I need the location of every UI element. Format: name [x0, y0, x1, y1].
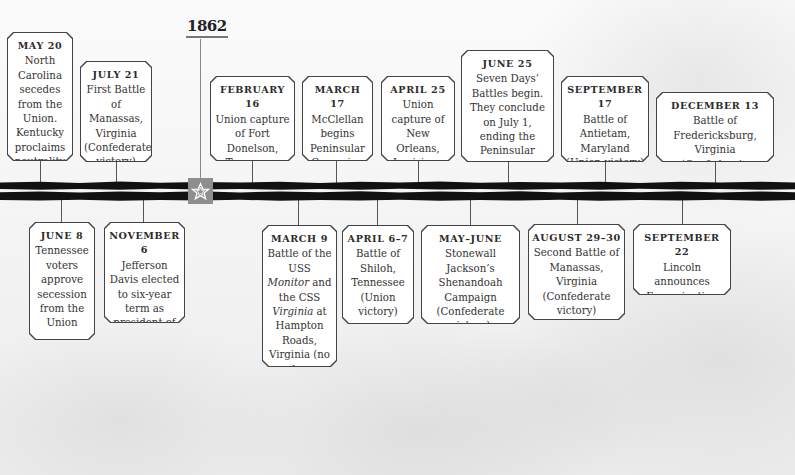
event-connector	[336, 160, 337, 183]
event-date: FEBRUARY 16	[214, 83, 291, 112]
event-connector	[252, 160, 253, 183]
event-date: NOVEMBER 6	[108, 229, 181, 258]
event-description: Seven Days’ Battles begin. They conclude…	[465, 72, 550, 173]
year-label: 1862	[186, 17, 228, 38]
event-description: Second Battle of Manassas, Virginia (Con…	[532, 246, 621, 318]
event-card: MAY–JUNE Stonewall Jackson’s Shenandoah …	[422, 226, 519, 323]
event-card: SEPTEMBER 22 Lincoln announces Emancipat…	[634, 225, 730, 294]
event-connector	[298, 199, 299, 226]
event-date: MARCH 9	[266, 232, 333, 246]
event-description: Union capture of New Orleans, Louisiana	[385, 98, 451, 170]
event-card: JULY 21 First Battle of Manassas, Virgin…	[81, 62, 151, 161]
event-connector	[61, 199, 62, 223]
event-card: AUGUST 29–30 Second Battle of Manassas, …	[529, 225, 624, 319]
event-date: JUNE 25	[465, 57, 550, 71]
event-connector	[577, 199, 578, 225]
event-date: JUNE 8	[33, 229, 91, 243]
event-card: FEBRUARY 16 Union capture of Fort Donels…	[211, 77, 294, 160]
event-date: DECEMBER 13	[660, 99, 770, 113]
event-description: North Carolina secedes from the Union. K…	[11, 54, 69, 169]
event-date: JULY 21	[84, 68, 148, 82]
event-connector	[116, 161, 117, 183]
year-marker	[188, 178, 213, 204]
event-connector	[605, 161, 606, 183]
event-connector	[508, 161, 509, 183]
event-card: MARCH 9 Battle of the USS Monitor and th…	[263, 226, 336, 366]
event-date: MARCH 17	[306, 83, 369, 112]
event-card: APRIL 6–7 Battle of Shiloh, Tennessee (U…	[343, 226, 413, 323]
event-date: APRIL 6–7	[346, 232, 410, 246]
event-connector	[715, 161, 716, 183]
event-card: APRIL 25 Union capture of New Orleans, L…	[382, 77, 454, 160]
event-connector	[377, 199, 378, 226]
star-icon	[191, 182, 210, 201]
event-connector	[418, 160, 419, 183]
event-card: MAY 20 North Carolina secedes from the U…	[8, 33, 72, 160]
event-connector	[40, 160, 41, 183]
event-connector	[682, 199, 683, 225]
event-connector	[143, 199, 144, 223]
event-card: NOVEMBER 6 Jefferson Davis elected to si…	[105, 223, 184, 322]
event-date: MAY 20	[11, 39, 69, 53]
event-date: SEPTEMBER 17	[565, 83, 645, 112]
event-connector	[470, 199, 471, 226]
event-card: DECEMBER 13 Battle of Fredericksburg, Vi…	[657, 93, 773, 161]
event-card: SEPTEMBER 17 Battle of Antietam, Marylan…	[562, 77, 648, 161]
event-description: Stonewall Jackson’s Shenandoah Campaign …	[425, 247, 516, 333]
event-description: Battle of Shiloh, Tennessee (Union victo…	[346, 247, 410, 319]
event-card: MARCH 17 McClellan begins Peninsular Cam…	[303, 77, 372, 160]
event-card: JUNE 8 Tennessee voters approve secessio…	[30, 223, 94, 339]
event-date: AUGUST 29–30	[532, 231, 621, 245]
timeline-bar	[0, 181, 795, 202]
event-date: APRIL 25	[385, 83, 451, 97]
event-date: MAY–JUNE	[425, 232, 516, 246]
event-card: JUNE 25 Seven Days’ Battles begin. They …	[462, 51, 553, 161]
event-date: SEPTEMBER 22	[637, 231, 727, 260]
year-pointer-line	[200, 39, 201, 179]
event-description: First Battle of Manassas, Virginia (Conf…	[84, 83, 148, 169]
event-description: Tennessee voters approve secession from …	[33, 244, 91, 330]
